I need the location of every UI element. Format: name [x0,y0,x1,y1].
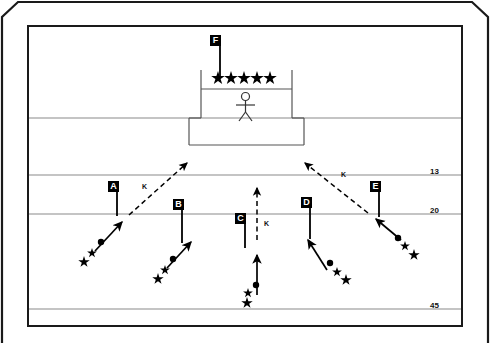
marker-label-d[interactable]: D [301,197,312,208]
path-label-k-c: K [264,220,269,227]
row-number-20: 20 [430,206,439,215]
diagram-canvas: A B C D E F K K K 13 20 45 [0,0,490,345]
row-number-13: 13 [430,167,439,176]
inner-border [28,26,462,326]
path-label-k-a: K [142,183,147,190]
diagram-svg [0,0,490,345]
marker-label-f[interactable]: F [210,35,221,46]
marker-label-b[interactable]: B [173,199,184,210]
path-label-k-e: K [341,171,346,178]
marker-label-c[interactable]: C [235,213,246,224]
row-number-45: 45 [430,301,439,310]
marker-label-e[interactable]: E [370,181,381,192]
marker-label-a[interactable]: A [108,181,119,192]
